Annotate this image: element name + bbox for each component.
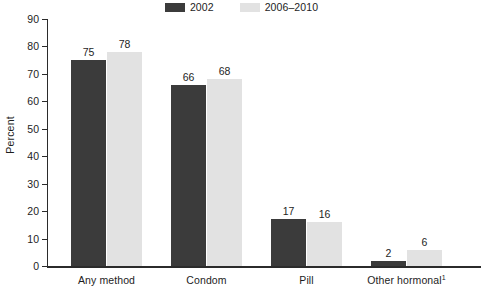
y-tick-label: 90 (27, 13, 39, 25)
legend-entry-2006-2010: 2006–2010 (240, 2, 318, 13)
bar-value-label: 66 (183, 71, 195, 83)
y-tick-mark (42, 74, 47, 75)
bar-group: 26 (371, 19, 442, 266)
category-footnote-marker: 1 (442, 274, 446, 281)
legend-swatch-2006-2010 (240, 3, 260, 12)
bar-group: 1716 (271, 19, 342, 266)
bar-value-label: 75 (83, 46, 95, 58)
legend-label-2006-2010: 2006–2010 (265, 2, 318, 13)
bar: 2 (371, 261, 406, 266)
y-tick-mark (42, 46, 47, 47)
y-tick-mark (42, 184, 47, 185)
y-tick-label: 70 (27, 68, 39, 80)
plot-area: 9080706050403020100 75786668171626 (47, 19, 481, 268)
y-tick-label: 0 (33, 260, 39, 272)
category-label: Condom (186, 274, 226, 286)
bar-value-label: 17 (283, 205, 295, 217)
bar-chart: 2002 2006–2010 Percent 90807060504030201… (0, 0, 483, 292)
y-tick-mark (42, 101, 47, 102)
y-axis-title-text: Percent (4, 116, 16, 154)
y-tick-label: 30 (27, 178, 39, 190)
x-axis-line (47, 266, 481, 268)
y-tick-mark (42, 211, 47, 212)
y-tick-label: 40 (27, 150, 39, 162)
legend-swatch-2002 (165, 3, 185, 12)
legend-label-2002: 2002 (190, 2, 214, 13)
y-tick-label: 20 (27, 205, 39, 217)
bar: 78 (107, 52, 142, 266)
bar-value-label: 68 (219, 65, 231, 77)
bar: 17 (271, 219, 306, 266)
bar-group: 6668 (171, 19, 242, 266)
y-axis-title: Percent (2, 0, 18, 270)
legend-entry-2002: 2002 (165, 2, 214, 13)
chart-legend: 2002 2006–2010 (0, 2, 483, 13)
category-label: Any method (78, 274, 135, 286)
bar: 68 (207, 79, 242, 266)
y-tick-label: 60 (27, 95, 39, 107)
y-tick-mark (42, 19, 47, 20)
y-tick-mark (42, 239, 47, 240)
y-tick-label: 50 (27, 123, 39, 135)
bar-value-label: 2 (386, 247, 392, 259)
category-label: Other hormonal1 (367, 274, 445, 286)
y-tick-mark (42, 156, 47, 157)
y-tick-mark (42, 129, 47, 130)
bar: 16 (307, 222, 342, 266)
bar-value-label: 16 (319, 208, 331, 220)
category-label: Pill (299, 274, 313, 286)
bar: 66 (171, 85, 206, 266)
y-tick-label: 80 (27, 40, 39, 52)
bar-value-label: 78 (119, 38, 131, 50)
bar: 6 (407, 250, 442, 266)
bar: 75 (71, 60, 106, 266)
bar-value-label: 6 (422, 236, 428, 248)
bar-group: 7578 (71, 19, 142, 266)
y-axis-line (47, 19, 48, 268)
y-tick-label: 10 (27, 233, 39, 245)
y-tick-mark (42, 266, 47, 267)
